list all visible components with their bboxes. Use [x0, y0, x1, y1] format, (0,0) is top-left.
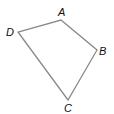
vertex-label-b: B — [99, 45, 106, 57]
vertex-label-c: C — [64, 102, 72, 114]
vertex-label-d: D — [6, 26, 14, 38]
vertex-label-a: A — [57, 6, 65, 18]
quadrilateral-diagram: A B C D — [0, 0, 114, 114]
quadrilateral-ABCD — [18, 20, 97, 100]
